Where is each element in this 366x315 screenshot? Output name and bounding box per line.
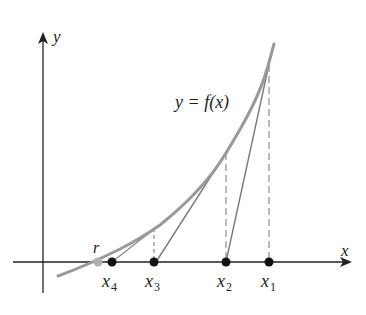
tangent-line-1: [226, 55, 271, 262]
point-x3: [150, 258, 159, 267]
point-label-x1-name: x: [261, 271, 269, 291]
y-axis: [38, 32, 48, 293]
point-x4: [108, 258, 117, 267]
y-axis-label: y: [53, 28, 61, 45]
point-label-x1-sub: 1: [270, 280, 276, 294]
point-label-x2-sub: 2: [226, 280, 232, 294]
newton-method-diagram: y x y = f(x) r x4 x3 x2 x1: [0, 0, 366, 315]
point-label-x3-name: x: [145, 271, 153, 291]
x-axis-label: x: [341, 242, 349, 259]
point-label-x4-sub: 4: [111, 280, 117, 294]
point-label-x4-name: x: [102, 271, 110, 291]
diagram-canvas: [0, 0, 366, 315]
point-label-x1: x1: [261, 272, 276, 293]
point-label-x3-sub: 3: [154, 280, 160, 294]
curve-label: y = f(x): [175, 93, 229, 111]
point-label-x4: x4: [102, 272, 117, 293]
point-x2: [222, 258, 231, 267]
x-axis: [13, 257, 352, 267]
root-point: [94, 258, 103, 267]
root-label: r: [93, 240, 99, 256]
point-label-x3: x3: [145, 272, 160, 293]
point-label-x2: x2: [217, 272, 232, 293]
function-curve: [58, 44, 274, 276]
curve-label-text: y = f(x): [175, 92, 229, 112]
point-x1: [265, 258, 274, 267]
point-label-x2-name: x: [217, 271, 225, 291]
